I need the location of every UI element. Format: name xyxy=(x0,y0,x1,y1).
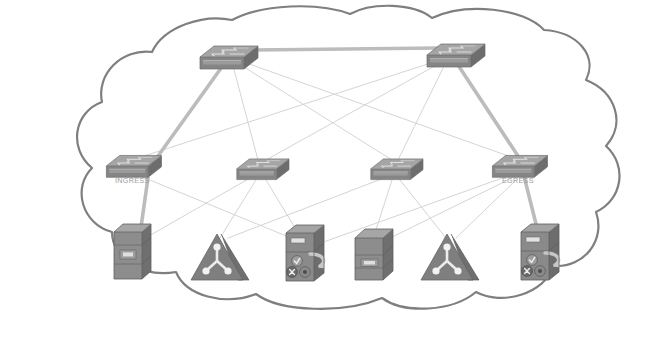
node-firewall-2[interactable] xyxy=(521,224,560,280)
network-topology-diagram: INGRESS EGRESS xyxy=(0,0,645,339)
diagram-canvas: INGRESS EGRESS xyxy=(0,0,645,339)
label-ingress: INGRESS xyxy=(115,176,149,185)
node-firewall-1[interactable] xyxy=(286,225,325,281)
node-server-2[interactable] xyxy=(355,229,393,280)
link-highlight-core-left-core-right xyxy=(250,48,438,50)
label-egress: EGRESS xyxy=(502,176,534,185)
node-server-1[interactable] xyxy=(114,224,151,279)
